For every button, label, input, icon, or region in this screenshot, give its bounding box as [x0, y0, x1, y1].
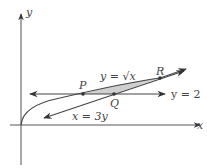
x-axis-label: x — [197, 119, 204, 132]
point-R-label: R — [155, 65, 164, 78]
point-P — [81, 92, 85, 96]
y-axis-label: y — [25, 6, 33, 19]
sqrt-curve-label: y = √x — [99, 70, 136, 83]
point-Q — [112, 92, 116, 96]
line-y-2-label: y = 2 — [170, 88, 200, 101]
point-P-label: P — [78, 79, 87, 92]
diagram-canvas: y x P Q R y = √x x = 3y y = 2 — [0, 0, 207, 168]
point-Q-label: Q — [110, 97, 119, 110]
line-x-3y-label: x = 3y — [72, 110, 108, 123]
